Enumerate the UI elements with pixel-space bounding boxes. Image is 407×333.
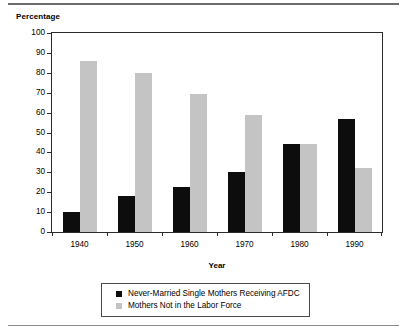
x-axis-tick — [162, 232, 163, 236]
legend-item: Mothers Not in the Labor Force — [116, 300, 309, 312]
x-axis-tick-label: 1980 — [290, 241, 308, 249]
x-axis-tick — [381, 232, 382, 236]
bar-1980-series-1 — [300, 144, 317, 232]
y-axis-tick — [47, 192, 52, 193]
y-axis-tick — [47, 212, 52, 213]
legend-item: Never-Married Single Mothers Receiving A… — [116, 288, 309, 300]
y-axis-tick — [47, 113, 52, 114]
y-axis-tick-label: 80 — [36, 69, 45, 77]
x-axis-tick-label: 1970 — [235, 241, 253, 249]
legend-swatch-icon — [116, 303, 122, 309]
y-axis-title: Percentage — [16, 12, 60, 21]
bar-1970-series-0 — [228, 172, 245, 232]
bar-1960-series-0 — [173, 187, 190, 232]
chart-figure: Percentage 0102030405060708090100 194019… — [0, 0, 407, 333]
y-axis-tick — [47, 172, 52, 173]
y-axis-tick — [47, 53, 52, 54]
y-axis-tick-label: 90 — [36, 49, 45, 57]
y-axis-tick — [47, 152, 52, 153]
x-axis-tick-label: 1940 — [70, 241, 88, 249]
plot-area: 0102030405060708090100 19401950196019701… — [51, 32, 383, 233]
bar-1990-series-0 — [338, 119, 355, 232]
y-axis-tick — [47, 73, 52, 74]
x-axis-tick — [327, 232, 328, 236]
x-axis-title: Year — [51, 261, 383, 270]
bar-1940-series-1 — [80, 61, 97, 232]
y-axis-tick-label: 20 — [36, 188, 45, 196]
legend-swatch-icon — [116, 291, 122, 297]
y-axis-tick-label: 50 — [36, 128, 45, 136]
y-axis-tick-label: 100 — [31, 29, 45, 37]
y-axis-tick-label: 30 — [36, 168, 45, 176]
y-axis-tick-label: 0 — [40, 228, 45, 236]
x-axis-tick — [107, 232, 108, 236]
chart-legend: Never-Married Single Mothers Receiving A… — [101, 283, 310, 317]
x-axis-tick-label: 1950 — [125, 241, 143, 249]
y-axis-tick — [47, 33, 52, 34]
bar-1950-series-0 — [118, 196, 135, 232]
top-divider-rule — [8, 3, 399, 5]
legend-item-label: Never-Married Single Mothers Receiving A… — [128, 290, 300, 298]
x-axis-tick — [272, 232, 273, 236]
x-axis-tick — [217, 232, 218, 236]
y-axis-tick-label: 40 — [36, 148, 45, 156]
bar-1990-series-1 — [355, 168, 372, 232]
y-axis-tick-label: 10 — [36, 208, 45, 216]
y-axis-tick-label: 60 — [36, 108, 45, 116]
bar-1950-series-1 — [135, 73, 152, 232]
x-axis-tick-label: 1990 — [345, 241, 363, 249]
bar-1940-series-0 — [63, 212, 80, 232]
y-axis-tick-label: 70 — [36, 89, 45, 97]
x-axis-tick-label: 1960 — [180, 241, 198, 249]
bar-1960-series-1 — [190, 94, 207, 232]
y-axis-tick — [47, 133, 52, 134]
x-axis-tick — [52, 232, 53, 236]
legend-item-label: Mothers Not in the Labor Force — [128, 302, 241, 310]
bottom-divider-rule — [8, 325, 399, 326]
bar-1980-series-0 — [283, 144, 300, 232]
y-axis-tick — [47, 93, 52, 94]
bar-1970-series-1 — [245, 115, 262, 232]
